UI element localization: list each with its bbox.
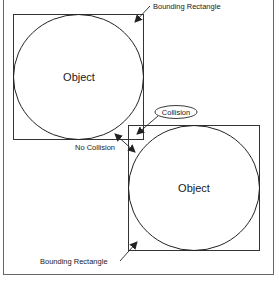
bounding-rectangle-label-top: Bounding Rectangle: [153, 2, 221, 11]
bounding-rectangle-label-bottom: Bounding Rectangle: [40, 257, 108, 266]
no-collision-label: No Collision: [75, 143, 115, 152]
bounding-rectangle-collision-diagram: Object Object Bounding Rectangle Collisi…: [0, 0, 279, 283]
arrow-no-collision-icon: [115, 134, 135, 152]
object-1-label: Object: [63, 71, 95, 83]
object-1-group: Object: [14, 15, 144, 140]
collision-label: Collision: [162, 108, 190, 117]
object-2-group: Object: [129, 126, 260, 251]
object-2-label: Object: [178, 182, 210, 194]
